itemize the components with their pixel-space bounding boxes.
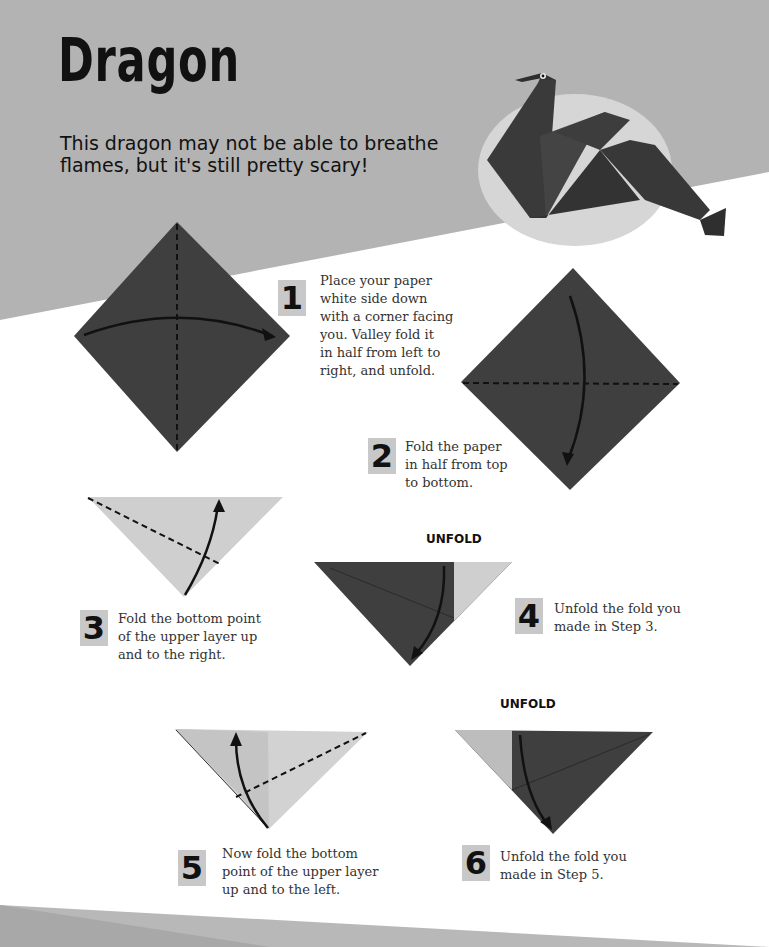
step-line: made in Step 5. — [500, 867, 604, 882]
step-6-diagram — [0, 0, 769, 947]
step-number: 6 — [465, 847, 487, 879]
step-6-text: Unfold the fold you made in Step 5. — [500, 848, 640, 884]
step-6-badge: 6 — [462, 845, 490, 881]
step-line: Unfold the fold you — [500, 849, 627, 864]
